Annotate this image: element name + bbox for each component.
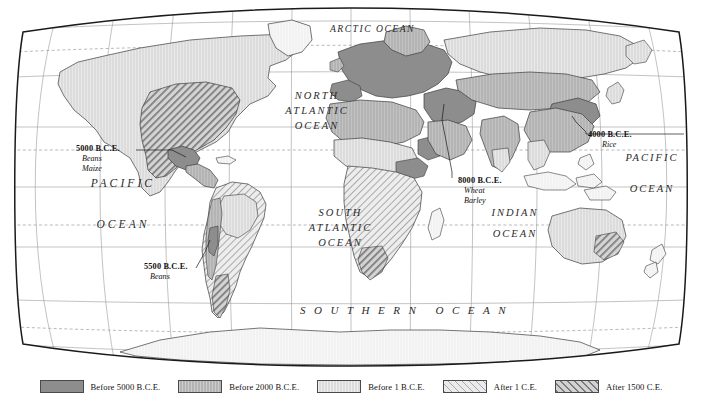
legend-label-before-2000-bce: Before 2000 B.C.E. — [229, 382, 299, 392]
legend-swatch-before-1-bce — [317, 380, 361, 393]
map-legend: Before 5000 B.C.E. Before 2000 B.C.E. Be… — [0, 370, 702, 403]
legend-swatch-before-5000-bce — [40, 380, 84, 393]
legend-label-before-1-bce: Before 1 B.C.E. — [368, 382, 425, 392]
map-canvas: ARCTIC OCEAN NORTH ATLANTIC OCEAN PACIFI… — [0, 0, 702, 370]
world-map-figure: ARCTIC OCEAN NORTH ATLANTIC OCEAN PACIFI… — [0, 0, 702, 403]
legend-item-before-2000-bce: Before 2000 B.C.E. — [178, 380, 299, 393]
legend-item-before-1-bce: Before 1 B.C.E. — [317, 380, 425, 393]
legend-label-after-1500-ce: After 1500 C.E. — [606, 382, 662, 392]
map-graphic — [0, 0, 702, 370]
legend-item-before-5000-bce: Before 5000 B.C.E. — [40, 380, 161, 393]
legend-label-before-5000-bce: Before 5000 B.C.E. — [91, 382, 161, 392]
legend-swatch-after-1-ce — [443, 380, 487, 393]
legend-swatch-after-1500-ce — [555, 380, 599, 393]
legend-item-after-1500-ce: After 1500 C.E. — [555, 380, 662, 393]
legend-item-after-1-ce: After 1 C.E. — [443, 380, 537, 393]
legend-label-after-1-ce: After 1 C.E. — [494, 382, 537, 392]
legend-swatch-before-2000-bce — [178, 380, 222, 393]
